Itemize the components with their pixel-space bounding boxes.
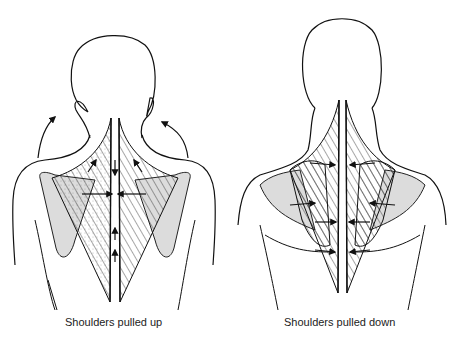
back-illustration-up — [0, 0, 230, 342]
arrow-up-left — [38, 117, 55, 158]
head-outline — [71, 36, 155, 138]
back-illustration-down — [230, 0, 453, 342]
figure-shoulders-down — [230, 0, 453, 342]
caption-shoulders-down: Shoulders pulled down — [284, 316, 395, 328]
head-outline — [303, 19, 382, 108]
figure-shoulders-up — [0, 0, 230, 342]
caption-shoulders-up: Shoulders pulled up — [65, 316, 162, 328]
arrow-up-right — [162, 122, 188, 158]
